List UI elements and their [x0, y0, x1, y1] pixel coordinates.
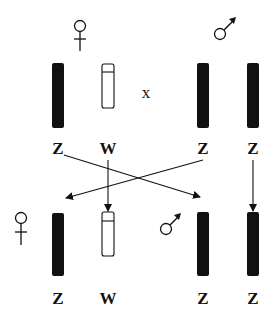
parent-male-z-label-1: Z: [197, 140, 208, 157]
offspring-male-z-chromosome-1: [197, 212, 209, 276]
offspring-male-z-chromosome-2: [247, 212, 259, 276]
offspring-female-w-chromosome: [102, 212, 114, 256]
parent-female-z-label: Z: [52, 140, 63, 157]
offspring-male-z-label-2: Z: [247, 290, 258, 307]
offspring-female-w-label: W: [100, 290, 117, 307]
male-symbol-icon: [161, 213, 182, 235]
arrow-mother-z-to-son: [64, 155, 200, 197]
cross-symbol: x: [142, 84, 151, 101]
offspring-male-z-label-1: Z: [197, 290, 208, 307]
offspring-female-z-chromosome: [52, 213, 64, 276]
parent-male-z-chromosome-2: [247, 63, 259, 128]
offspring-female-z-label: Z: [52, 290, 63, 307]
arrow-father-z-to-daughter: [66, 160, 203, 198]
parent-male-z-chromosome-1: [197, 63, 209, 128]
parent-male-z-label-2: Z: [247, 140, 258, 157]
zw-inheritance-diagram: [0, 0, 274, 314]
parent-female-z-chromosome: [52, 63, 64, 128]
parent-female-w-chromosome: [102, 64, 114, 108]
female-symbol-icon: [15, 213, 27, 246]
parent-female-w-label: W: [100, 140, 117, 157]
female-symbol-icon: [74, 21, 86, 52]
male-symbol-icon: [215, 17, 237, 40]
